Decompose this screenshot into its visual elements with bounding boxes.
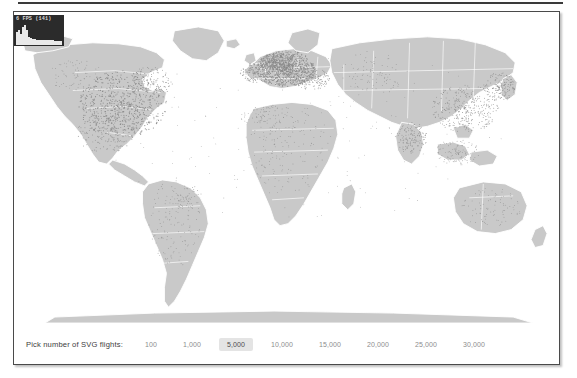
flight-dot — [275, 53, 276, 54]
flight-dot — [464, 143, 465, 144]
flight-dot — [191, 252, 192, 253]
flight-dot — [115, 131, 116, 132]
flight-dot — [156, 120, 157, 121]
flight-dot — [270, 118, 271, 119]
flight-dot — [318, 76, 319, 77]
flight-dot — [142, 109, 143, 110]
flight-dot — [275, 78, 276, 79]
flight-dot — [189, 193, 190, 194]
flight-dot — [355, 87, 356, 88]
flight-dot — [116, 130, 117, 131]
flight-dot — [414, 139, 415, 140]
flight-dot — [117, 133, 118, 134]
flight-dot — [191, 233, 192, 234]
flight-count-option-100[interactable]: 100 — [137, 338, 165, 351]
flight-dot — [295, 51, 296, 52]
flight-dot — [117, 110, 118, 111]
flight-dot — [56, 82, 57, 83]
flight-dot — [213, 138, 214, 139]
flight-dot — [121, 97, 122, 98]
flight-dot — [298, 65, 299, 66]
flight-dot — [268, 56, 269, 57]
flight-dot — [73, 73, 74, 74]
flight-dot — [267, 65, 268, 66]
flight-dot — [285, 52, 286, 53]
flight-dot — [290, 61, 291, 62]
flight-dot — [111, 83, 112, 84]
flight-count-option-5000[interactable]: 5,000 — [219, 338, 253, 351]
flight-dot — [277, 192, 278, 193]
flight-dot — [95, 108, 96, 109]
flight-count-option-20000[interactable]: 20,000 — [359, 338, 397, 351]
flight-dot — [114, 149, 115, 150]
flight-dot — [269, 71, 270, 72]
flight-dot — [268, 114, 269, 115]
flight-dot — [271, 66, 272, 67]
flight-dot — [496, 220, 497, 221]
flight-dot — [123, 101, 124, 102]
flight-count-option-15000[interactable]: 15,000 — [311, 338, 349, 351]
flight-dot — [482, 221, 483, 222]
flight-dot — [407, 127, 408, 128]
flight-dot — [317, 79, 318, 80]
flight-dot — [180, 204, 181, 205]
flight-dot — [305, 89, 306, 90]
flight-dot — [155, 80, 156, 81]
flight-dot — [158, 86, 159, 87]
world-map-container[interactable] — [15, 13, 558, 326]
flight-dot — [148, 88, 149, 89]
flight-dot — [444, 125, 445, 126]
flight-dot — [298, 77, 299, 78]
flight-dot — [128, 85, 129, 86]
flight-count-option-30000[interactable]: 30,000 — [455, 338, 493, 351]
flight-dot — [96, 123, 97, 124]
flight-dot — [492, 119, 493, 120]
flight-dot — [169, 85, 170, 86]
flight-dot — [96, 125, 97, 126]
flight-dot — [271, 71, 272, 72]
flight-dot — [280, 62, 281, 63]
flight-dot — [300, 83, 301, 84]
flight-dot — [506, 75, 507, 76]
flight-dot — [115, 114, 116, 115]
flight-dot — [280, 73, 281, 74]
flight-dot — [325, 84, 326, 85]
flight-dot — [189, 230, 190, 231]
flight-dot — [504, 210, 505, 211]
flight-dot — [290, 136, 291, 137]
flight-dot — [101, 132, 102, 133]
flight-dot — [474, 105, 475, 106]
flight-dot — [305, 108, 306, 109]
flight-dot — [295, 66, 296, 67]
flight-count-option-1000[interactable]: 1,000 — [175, 338, 209, 351]
flight-dot — [286, 65, 287, 66]
flight-dot — [319, 80, 320, 81]
flight-count-option-10000[interactable]: 10,000 — [263, 338, 301, 351]
flight-dot — [92, 134, 93, 135]
flight-dot — [454, 123, 455, 124]
flight-dot — [249, 157, 250, 158]
flight-dot — [161, 238, 162, 239]
flight-dot — [350, 86, 351, 87]
flight-dot — [138, 91, 139, 92]
flight-dot — [115, 130, 116, 131]
flight-dot — [142, 81, 143, 82]
flight-dot — [276, 65, 277, 66]
flight-count-option-25000[interactable]: 25,000 — [407, 338, 445, 351]
flight-dot — [295, 65, 296, 66]
flight-dot — [463, 124, 464, 125]
fps-meter-widget[interactable]: 6 FPS (141) — [14, 15, 64, 46]
flight-dot — [363, 70, 364, 71]
flight-dot — [151, 69, 152, 70]
flight-dot — [147, 92, 148, 93]
flight-dot — [316, 82, 317, 83]
flight-dot — [294, 84, 295, 85]
flight-dot — [120, 74, 121, 75]
flight-dot — [395, 69, 396, 70]
flight-dot — [298, 52, 299, 53]
flight-dot — [380, 73, 381, 74]
flight-dot — [291, 79, 292, 80]
flight-dot — [247, 78, 248, 79]
flight-dot — [287, 142, 288, 143]
flight-dot — [363, 74, 364, 75]
